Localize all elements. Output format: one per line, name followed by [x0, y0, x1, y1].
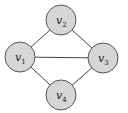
node-v1: v1	[5, 42, 35, 72]
node-v3: v3	[88, 43, 118, 73]
node-v4: v4	[46, 80, 76, 110]
graph-diagram: v1 v2 v3 v4	[0, 0, 128, 113]
node-v2: v2	[46, 5, 76, 35]
